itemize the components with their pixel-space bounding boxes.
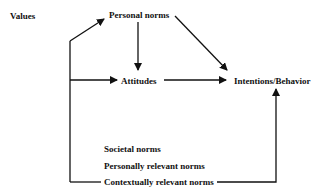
node-contextually-relevant-norms: Contextually relevant norms	[104, 177, 214, 187]
node-values: Values	[10, 11, 35, 21]
node-personal-norms: Personal norms	[109, 10, 169, 20]
arrow-personal-norms-to-intentions	[175, 16, 227, 70]
node-intentions-behavior: Intentions/Behavior	[234, 76, 311, 86]
node-personally-relevant-norms: Personally relevant norms	[104, 161, 205, 171]
arrow-contextual-norms-to-intentions	[217, 89, 276, 182]
arrow-values-to-personal-norms	[70, 19, 104, 41]
node-societal-norms: Societal norms	[104, 144, 161, 154]
node-attitudes: Attitudes	[121, 76, 157, 86]
